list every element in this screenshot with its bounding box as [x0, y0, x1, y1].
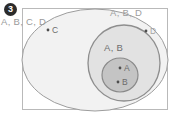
point-b-dot — [117, 81, 120, 84]
euler-diagram: 3 A, B, C, D A, B, D A, B C D A B — [0, 0, 174, 118]
outer-set-label: A, B, D — [110, 7, 142, 18]
point-b-label: B — [122, 77, 128, 87]
point-a-dot — [119, 67, 122, 70]
point-d-label: D — [150, 26, 156, 36]
point-c-dot — [47, 29, 50, 32]
universe-set-label: A, B, C, D — [1, 16, 46, 27]
middle-set-label: A, B — [104, 42, 123, 53]
point-c-label: C — [52, 25, 58, 35]
figure-marker-badge: 3 — [4, 3, 17, 16]
inner-set-ellipse — [102, 58, 138, 92]
point-a-label: A — [124, 63, 130, 73]
point-d-dot — [145, 30, 148, 33]
